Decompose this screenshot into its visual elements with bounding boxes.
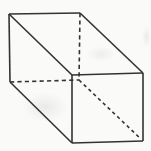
front-bottom-edge [72,141,143,143]
cuboid-wireframe [0,0,151,151]
top-right-connector-edge [80,13,143,73]
top-left-connector-edge [9,14,72,75]
bottom-right-hidden-connector-edge [79,80,140,138]
bottom-left-connector-edge [10,82,72,143]
figure-canvas [0,0,151,151]
back-top-edge [9,13,80,14]
back-bottom-hidden-edge [10,80,79,82]
back-left-edge [9,14,10,82]
back-right-hidden-edge [79,13,80,80]
front-top-edge [72,73,143,75]
